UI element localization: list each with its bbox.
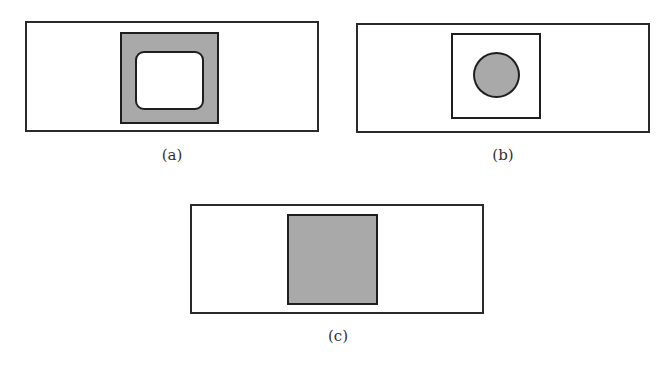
panel-a-label: (a) (162, 146, 183, 164)
panel-b-gray-circle (473, 52, 520, 98)
panel-a-rounded-hole (135, 51, 204, 110)
panel-c-label: (c) (328, 327, 348, 345)
panel-b-label: (b) (492, 146, 513, 164)
panel-c-gray-square (287, 214, 378, 305)
